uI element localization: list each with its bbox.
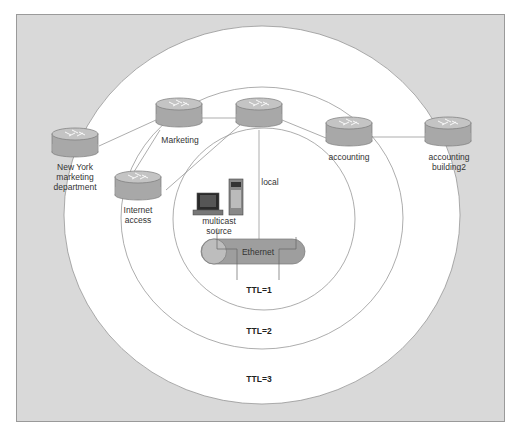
label-ethernet: Ethernet [242,247,275,257]
label-accounting-building2: accountingbuilding2 [428,152,469,172]
label-ttl-1: TTL=1 [246,285,272,295]
label-accounting: accounting [328,152,369,162]
label-marketing: Marketing [161,135,199,145]
router-internet-access[interactable] [115,171,161,200]
label-ttl-2: TTL=2 [246,326,272,336]
label-local: local [261,177,279,187]
label-internet-access: Internetaccess [124,205,153,225]
router-ny-marketing[interactable] [52,128,98,157]
label-ttl-3: TTL=3 [246,374,272,384]
label-multicast-source: multicastsource [202,216,236,236]
router-local[interactable] [236,98,282,127]
router-accounting[interactable] [326,117,372,146]
router-accounting-building2[interactable] [425,117,471,146]
label-ny-marketing: New Yorkmarketingdepartment [54,162,98,192]
router-marketing[interactable] [156,98,202,127]
ttl-scope-diagram: New Yorkmarketingdepartment Marketing lo… [0,0,527,434]
